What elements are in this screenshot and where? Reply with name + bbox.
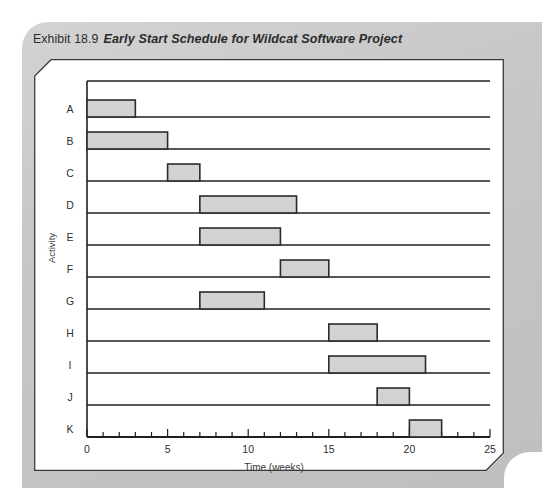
y-tick-label-H: H xyxy=(60,327,80,339)
y-tick-label-I: I xyxy=(60,359,80,371)
y-tick-label-J: J xyxy=(60,391,80,403)
exhibit-figure: Exhibit 18.9Early Start Schedule for Wil… xyxy=(0,0,548,496)
y-tick-label-D: D xyxy=(60,199,80,211)
y-tick-label-G: G xyxy=(60,295,80,307)
x-tick-label-15: 15 xyxy=(314,443,344,455)
x-tick-label-25: 25 xyxy=(475,443,505,455)
exhibit-caption: Early Start Schedule for Wildcat Softwar… xyxy=(103,32,402,46)
y-axis-title: Activity xyxy=(46,233,57,263)
x-tick-label-5: 5 xyxy=(153,443,183,455)
exhibit-title: Exhibit 18.9Early Start Schedule for Wil… xyxy=(33,32,503,52)
x-axis-title: Time (weeks) xyxy=(0,462,548,473)
chart-canvas xyxy=(34,59,504,471)
y-tick-label-A: A xyxy=(60,103,80,115)
x-tick-label-20: 20 xyxy=(394,443,424,455)
x-tick-label-0: 0 xyxy=(72,443,102,455)
y-tick-label-F: F xyxy=(60,263,80,275)
y-tick-label-B: B xyxy=(60,135,80,147)
y-axis-title-wrap: Activity xyxy=(38,0,58,496)
y-tick-label-C: C xyxy=(60,167,80,179)
x-tick-label-10: 10 xyxy=(233,443,263,455)
y-tick-label-K: K xyxy=(60,423,80,435)
y-tick-label-E: E xyxy=(60,231,80,243)
